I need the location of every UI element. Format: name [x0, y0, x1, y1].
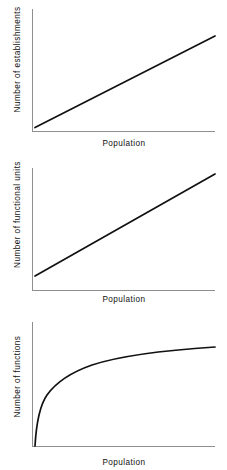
x-axis-label: Population	[32, 458, 216, 467]
data-series-curve	[35, 347, 215, 446]
x-axis-label: Population	[32, 295, 216, 304]
three-panel-figure: Number of establishments Population Numb…	[0, 0, 227, 470]
data-series-line	[35, 174, 215, 276]
y-axis-label: Number of establishments	[13, 0, 22, 127]
chart-panel-functional-units: Number of functional units Population	[0, 155, 227, 310]
chart-plot-area-establishments	[0, 0, 227, 155]
y-axis-label: Number of functions	[13, 309, 22, 444]
chart-plot-area-functions	[0, 310, 227, 470]
chart-panel-establishments: Number of establishments Population	[0, 0, 227, 155]
chart-panel-functions: Number of functions Population	[0, 310, 227, 465]
x-axis-label: Population	[32, 139, 216, 148]
data-series-line	[35, 36, 215, 128]
chart-plot-area-functional-units	[0, 155, 227, 310]
y-axis-label: Number of functional units	[13, 147, 22, 282]
